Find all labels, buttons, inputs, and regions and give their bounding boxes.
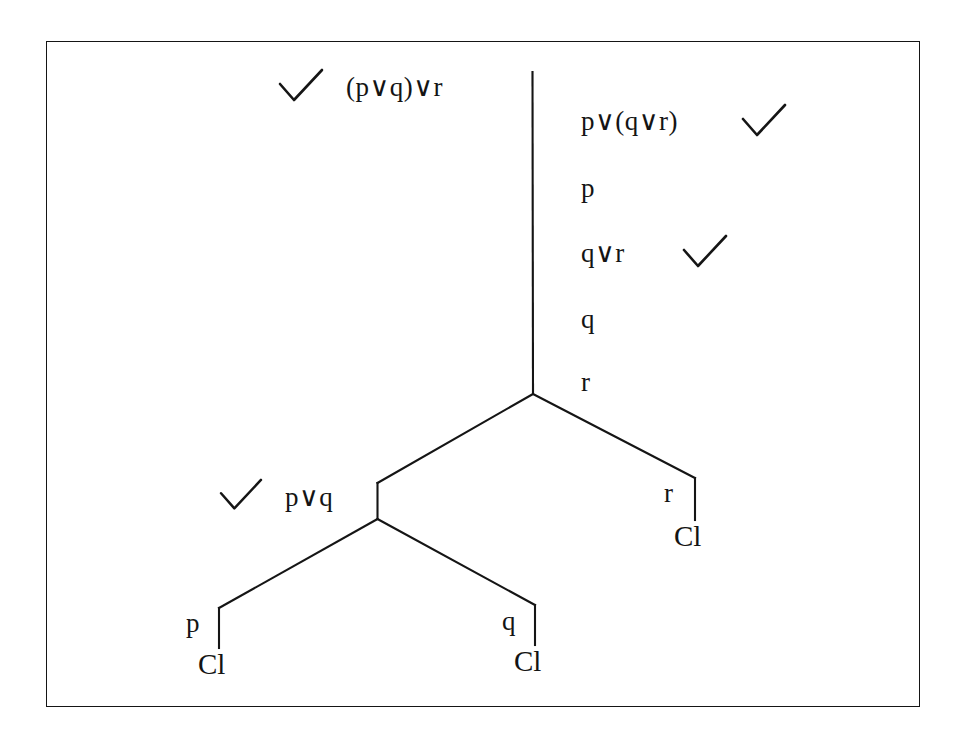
right-column-row-2-formula: q∨r: [581, 240, 625, 267]
check-icon-branch-left: [219, 478, 263, 516]
branch-right-lower: [378, 519, 536, 605]
leaf-0-closure: Cl: [198, 650, 225, 679]
branch-left-upper: [378, 394, 534, 483]
branch-right-upper: [533, 394, 695, 478]
trunk-line: [533, 72, 534, 394]
check-icon-row-0: [741, 103, 787, 143]
right-column-row-3-formula: q: [581, 306, 595, 333]
right-column-row-4-formula: r: [581, 369, 591, 396]
leaf-1-label: q: [502, 608, 516, 635]
leaf-1-closure: Cl: [514, 647, 541, 676]
check-icon-root-left: [278, 68, 324, 108]
branch-left-lower: [219, 519, 378, 608]
check-icon-row-2: [682, 234, 728, 274]
leaf-0-label: p: [186, 610, 200, 637]
leaf-right-label: r: [664, 480, 673, 507]
tree-branch-lines: [0, 0, 959, 743]
branch-left-formula: p∨q: [285, 484, 333, 511]
diagram-canvas: (p∨q)∨r p∨(q∨r) p q∨r q r p∨q r Cl p Cl …: [0, 0, 959, 743]
root-formula-left: (p∨q)∨r: [346, 74, 443, 101]
right-column-row-1-formula: p: [581, 175, 595, 202]
leaf-right-closure: Cl: [674, 522, 701, 551]
right-column-row-0-formula: p∨(q∨r): [581, 108, 678, 135]
